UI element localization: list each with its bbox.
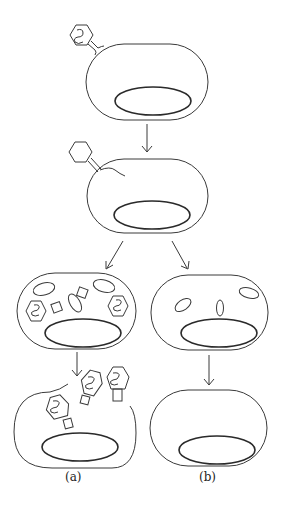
arrow-down-icon bbox=[204, 355, 214, 385]
cell-lysogenic-integration bbox=[151, 275, 268, 350]
cell-lysis bbox=[14, 367, 136, 468]
arrow-diagonal-left-icon bbox=[106, 241, 123, 269]
phage-capsid-icon bbox=[26, 301, 46, 321]
label-lytic: (a) bbox=[65, 470, 82, 484]
label-lysogenic: (b) bbox=[199, 470, 216, 484]
phage-icon bbox=[69, 142, 125, 176]
phage-icon bbox=[78, 369, 104, 405]
phage-icon bbox=[44, 393, 74, 429]
phage-lifecycle-diagram bbox=[0, 0, 282, 510]
cell-dna-injection bbox=[69, 142, 208, 233]
arrow-down-icon bbox=[142, 124, 152, 152]
cell-lysogen bbox=[150, 390, 267, 466]
arrow-diagonal-right-icon bbox=[172, 241, 189, 269]
phage-icon bbox=[107, 367, 129, 401]
cell-lytic-replication bbox=[17, 273, 136, 349]
phage-icon bbox=[70, 25, 104, 55]
integrated-prophage-icon bbox=[217, 300, 224, 316]
arrow-down-icon bbox=[72, 352, 82, 376]
cell-attachment bbox=[70, 25, 208, 120]
phage-capsid-icon bbox=[108, 296, 128, 316]
